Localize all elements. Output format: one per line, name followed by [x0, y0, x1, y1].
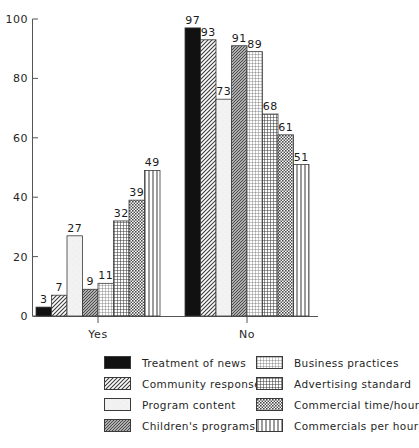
- legend-item[interactable]: Treatment of news: [104, 352, 261, 373]
- bar-value-label: 73: [216, 85, 231, 98]
- y-tick-label: 40: [13, 191, 28, 204]
- bar: [98, 283, 114, 316]
- x-axis-group-labels: YesNo: [87, 317, 255, 342]
- legend-swatch-icon: [104, 356, 131, 369]
- bars-layer: 37279113239499793739189686151: [36, 14, 309, 316]
- bar-value-label: 49: [145, 156, 160, 169]
- legend-item-label: Commercial time/hour: [294, 399, 419, 411]
- legend-item-label: Business practices: [294, 357, 399, 369]
- bar: [216, 99, 232, 316]
- bar: [36, 307, 52, 316]
- bar: [114, 221, 130, 316]
- legend-swatch-icon: [104, 398, 131, 411]
- legend-item-label: Advertising standard: [294, 378, 411, 390]
- x-axis-group-label: No: [239, 328, 255, 341]
- y-tick-label: 100: [6, 13, 29, 26]
- bar: [278, 135, 294, 316]
- bar: [83, 289, 99, 316]
- bar-value-label: 9: [87, 275, 95, 288]
- legend-column-right: Business practicesAdvertising standardCo…: [256, 352, 419, 436]
- bar-value-label: 7: [56, 281, 64, 294]
- legend-item[interactable]: Children's programs: [104, 415, 261, 436]
- legend-swatch-icon: [256, 419, 283, 432]
- legend-item-label: Program content: [142, 399, 236, 411]
- legend-item[interactable]: Commercial time/hour: [256, 394, 419, 415]
- bar-value-label: 61: [278, 121, 293, 134]
- legend-swatch-icon: [104, 419, 131, 432]
- x-axis-group-label: Yes: [87, 328, 108, 341]
- y-axis: 100 80 60 40 20 0: [6, 13, 39, 323]
- bar: [247, 52, 263, 316]
- bar: [232, 46, 248, 316]
- bar: [145, 170, 161, 316]
- bar-value-label: 89: [247, 38, 262, 51]
- legend-column-left: Treatment of newsCommunity responseProgr…: [104, 352, 261, 436]
- legend-item[interactable]: Business practices: [256, 352, 419, 373]
- y-tick-label: 20: [13, 251, 28, 264]
- y-tick-label: 80: [13, 72, 28, 85]
- bar-value-label: 39: [129, 186, 144, 199]
- legend-swatch-icon: [256, 398, 283, 411]
- bar-value-label: 91: [232, 32, 247, 45]
- bar-value-label: 32: [114, 207, 129, 220]
- legend-item[interactable]: Commercials per hour: [256, 415, 419, 436]
- legend-swatch-icon: [256, 377, 283, 390]
- legend-item-label: Children's programs: [142, 420, 255, 432]
- legend-swatch-icon: [104, 377, 131, 390]
- chart-plot-area: 100 80 60 40 20 0 3727911323949979373918…: [0, 0, 417, 352]
- bar-value-label: 27: [67, 222, 82, 235]
- chart-legend: Treatment of newsCommunity responseProgr…: [0, 352, 417, 448]
- legend-item[interactable]: Advertising standard: [256, 373, 419, 394]
- y-tick-label: 60: [13, 132, 28, 145]
- bar-value-label: 97: [185, 14, 200, 27]
- bar-value-label: 3: [40, 293, 48, 306]
- bar-value-label: 51: [294, 151, 309, 164]
- bar-value-label: 68: [263, 100, 278, 113]
- bar-value-label: 93: [201, 26, 216, 39]
- bar: [294, 165, 310, 316]
- legend-item-label: Commercials per hour: [294, 420, 418, 432]
- bar: [201, 40, 217, 316]
- bar: [185, 28, 201, 316]
- y-tick-label: 0: [21, 310, 29, 323]
- bar: [52, 295, 68, 316]
- legend-item-label: Community response: [142, 378, 261, 390]
- bar: [67, 236, 83, 316]
- legend-item-label: Treatment of news: [142, 357, 246, 369]
- bar: [263, 114, 279, 316]
- legend-item[interactable]: Community response: [104, 373, 261, 394]
- bar: [129, 200, 145, 316]
- legend-swatch-icon: [256, 356, 283, 369]
- legend-item[interactable]: Program content: [104, 394, 261, 415]
- bar-value-label: 11: [98, 269, 113, 282]
